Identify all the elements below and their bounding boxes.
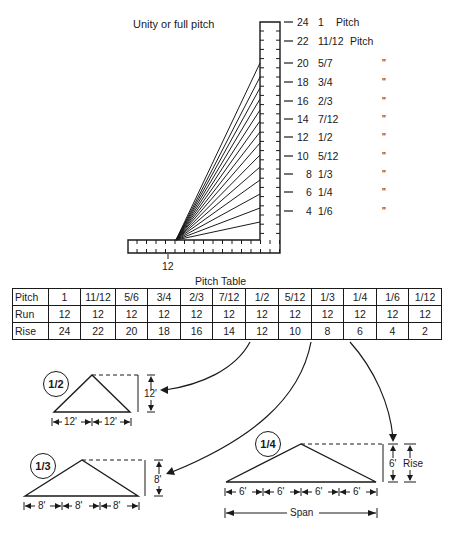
scale-rise-14: 14 (297, 114, 309, 125)
scale-pitch-label: 2/3 (318, 96, 333, 107)
scale-pitch-label: 1 (318, 17, 324, 28)
span-label: Span (290, 508, 313, 518)
scale-pitch-suffix: " (382, 169, 386, 180)
scale-pitch-suffix: Pitch (350, 36, 373, 47)
table-cell: 2/3 (181, 289, 213, 306)
pitch-table-title: Pitch Table (195, 276, 246, 287)
table-cell: 1/12 (409, 289, 442, 306)
scale-rise-10: 10 (297, 151, 309, 162)
table-cell: 12 (213, 306, 246, 323)
scale-pitch-suffix: " (382, 96, 386, 107)
scale-pitch-suffix: " (382, 114, 386, 125)
third-run-segment-3: 8' (113, 501, 120, 511)
scale-pitch-label: 5/7 (318, 58, 333, 69)
scale-pitch-suffix: " (382, 206, 386, 217)
table-cell: 1/2 (246, 289, 279, 306)
table-cell: 11/12 (81, 289, 116, 306)
pitch-badge-half: 1/2 (43, 371, 69, 397)
quarter-rise-value: 6' (389, 459, 396, 469)
table-cell: 12 (246, 323, 279, 340)
scale-rise-8: 8 (306, 169, 312, 180)
row-header: Run (13, 306, 49, 323)
table-cell: 6 (344, 323, 377, 340)
table-cell: 20 (116, 323, 148, 340)
table-cell: 8 (312, 323, 344, 340)
table-cell: 1 (49, 289, 81, 306)
table-cell: 22 (81, 323, 116, 340)
pitch-table: Pitch111/125/63/42/37/121/25/121/31/41/6… (12, 288, 442, 340)
scale-pitch-suffix: " (382, 132, 386, 143)
table-row: Run121212121212121212121212 (13, 306, 442, 323)
scale-pitch-label: 1/2 (318, 132, 333, 143)
table-row: Pitch111/125/63/42/37/121/25/121/31/41/6… (13, 289, 442, 306)
table-cell: 12 (81, 306, 116, 323)
half-run-segment-1: 12' (64, 417, 77, 427)
half-rise-label: 12' (144, 389, 157, 399)
scale-pitch-label: 1/3 (318, 169, 333, 180)
table-cell: 12 (279, 306, 312, 323)
quarter-run-segment-4: 6' (353, 487, 360, 497)
scale-pitch-label: 1/4 (318, 187, 333, 198)
scale-rise-12: 12 (297, 132, 309, 143)
third-run-segment-2: 8' (75, 501, 82, 511)
row-header: Rise (13, 323, 49, 340)
table-cell: 12 (246, 306, 279, 323)
table-cell: 12 (312, 306, 344, 323)
table-cell: 1/6 (377, 289, 409, 306)
scale-pitch-suffix: Pitch (336, 17, 359, 28)
pitch-badge-quarter: 1/4 (255, 431, 281, 457)
quarter-run-segment-3: 6' (315, 487, 322, 497)
run-12-label: 12 (162, 261, 174, 272)
table-cell: 5/6 (116, 289, 148, 306)
quarter-run-segment-1: 6' (239, 487, 246, 497)
third-rise-label: 8' (154, 475, 161, 485)
table-cell: 18 (148, 323, 181, 340)
table-cell: 12 (181, 306, 213, 323)
table-cell: 4 (377, 323, 409, 340)
quarter-rise-label: Rise (403, 459, 423, 469)
scale-pitch-label: 1/6 (318, 206, 333, 217)
scale-pitch-suffix: " (382, 58, 386, 69)
scale-rise-22: 22 (297, 36, 309, 47)
table-row: Rise24222018161412108642 (13, 323, 442, 340)
table-cell: 1/3 (312, 289, 344, 306)
table-cell: 12 (116, 306, 148, 323)
table-cell: 1/4 (344, 289, 377, 306)
scale-pitch-suffix: " (382, 187, 386, 198)
scale-pitch-label: 7/12 (318, 114, 338, 125)
table-cell: 24 (49, 323, 81, 340)
table-cell: 3/4 (148, 289, 181, 306)
table-cell: 12 (409, 306, 442, 323)
table-cell: 7/12 (213, 289, 246, 306)
table-cell: 2 (409, 323, 442, 340)
quarter-run-segment-2: 6' (277, 487, 284, 497)
half-run-segment-2: 12' (104, 417, 117, 427)
table-cell: 10 (279, 323, 312, 340)
scale-pitch-label: 11/12 (318, 36, 344, 47)
table-cell: 5/12 (279, 289, 312, 306)
scale-pitch-suffix: " (382, 151, 386, 162)
scale-pitch-label: 5/12 (318, 151, 338, 162)
scale-rise-4: 4 (306, 206, 312, 217)
scale-rise-20: 20 (297, 58, 309, 69)
pitch-badge-third: 1/3 (30, 453, 56, 479)
scale-rise-16: 16 (297, 96, 309, 107)
scale-rise-6: 6 (306, 187, 312, 198)
scale-rise-24: 24 (297, 17, 309, 28)
table-cell: 12 (377, 306, 409, 323)
row-header: Pitch (13, 289, 49, 306)
scale-pitch-suffix: " (382, 77, 386, 88)
table-cell: 16 (181, 323, 213, 340)
scale-rise-18: 18 (297, 77, 309, 88)
table-cell: 12 (148, 306, 181, 323)
table-cell: 12 (49, 306, 81, 323)
table-cell: 12 (344, 306, 377, 323)
scale-pitch-label: 3/4 (318, 77, 333, 88)
table-cell: 14 (213, 323, 246, 340)
third-run-segment-1: 8' (38, 501, 45, 511)
